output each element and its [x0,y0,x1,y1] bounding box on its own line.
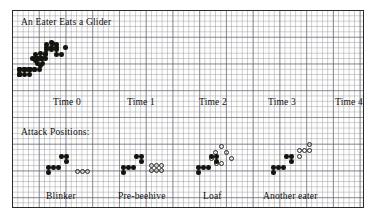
caption-time-0: Time 0 [53,97,81,107]
life-cell-alive [126,165,131,170]
life-cell-alive [51,165,56,170]
life-cell-alive [46,170,51,175]
life-cell-alive [271,170,276,175]
life-cell-alive [196,170,201,175]
figure-panel: An Eater Eats a Glider Attack Positions:… [12,10,364,208]
life-cell-alive [284,154,289,159]
life-cell-alive [139,159,144,164]
life-cell-alive [54,47,59,52]
life-cell-attack [219,161,224,166]
life-cell-alive [17,72,22,77]
life-cell-alive [50,41,55,46]
life-cell-alive [289,159,294,164]
graph-paper-grid [13,11,363,207]
life-cell-alive [46,165,51,170]
life-cell-alive [276,165,281,170]
life-cell-alive [121,170,126,175]
life-cell-alive [64,154,69,159]
life-cell-alive [201,165,206,170]
life-cell-alive [22,72,27,77]
caption-time-1: Time 1 [127,97,155,107]
life-cell-alive [27,72,32,77]
life-cell-alive [289,154,294,159]
caption-time-4: Time 4 [335,97,363,107]
life-cell-alive [63,45,68,50]
life-cell-attack [224,150,229,155]
life-cell-alive [54,42,59,47]
life-cell-alive [56,165,61,170]
life-cell-alive [22,67,27,72]
caption-attack-0: Blinker [46,191,76,201]
caption-attack-3: Another eater [263,191,318,201]
figure-title: An Eater Eats a Glider [21,17,111,27]
attack-positions-label: Attack Positions: [21,127,90,137]
life-cell-alive [139,154,144,159]
life-cell-alive [40,61,45,66]
life-cell-alive [40,56,45,61]
caption-attack-1: Pre-beehive [118,191,166,201]
life-cell-alive [35,61,40,66]
life-cell-alive [49,47,54,52]
life-cell-alive [121,165,126,170]
life-cell-alive [281,165,286,170]
life-cell-alive [59,154,64,159]
life-cell-attack [229,156,234,161]
life-cell-attack [85,169,90,174]
life-cell-attack [307,142,312,147]
life-cell-alive [131,165,136,170]
life-cell-attack [219,144,224,149]
life-cell-alive [17,67,22,72]
life-cell-alive [206,165,211,170]
caption-time-3: Time 3 [268,97,296,107]
life-cell-alive [64,159,69,164]
life-cell-alive [32,67,37,72]
caption-time-2: Time 2 [199,97,227,107]
life-cell-alive [209,154,214,159]
life-cell-alive [44,42,49,47]
caption-attack-2: Loaf [203,191,222,201]
life-cell-attack [159,168,164,173]
life-cell-alive [38,51,43,56]
life-cell-attack [307,148,312,153]
life-cell-alive [35,56,40,61]
life-cell-alive [134,154,139,159]
life-cell-alive [54,52,59,57]
life-cell-alive [37,67,42,72]
life-cell-attack [297,154,302,159]
life-cell-alive [214,154,219,159]
life-cell-alive [44,47,49,52]
life-cell-alive [214,159,219,164]
life-cell-alive [30,56,35,61]
life-cell-alive [59,52,64,57]
life-cell-alive [196,165,201,170]
life-cell-alive [271,165,276,170]
life-cell-alive [27,67,32,72]
